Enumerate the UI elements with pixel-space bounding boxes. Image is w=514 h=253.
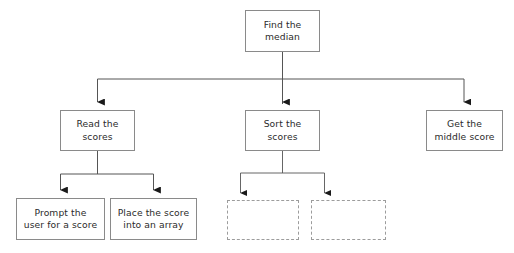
node-sort-child-placeholder-2[interactable] xyxy=(311,200,386,240)
node-sort-the-scores[interactable]: Sort the scores xyxy=(245,110,320,151)
node-sort-child-placeholder-1[interactable] xyxy=(227,200,299,240)
flowchart-canvas: Find the median Read the scores Sort the… xyxy=(0,0,514,253)
edge-group-read-the-scores xyxy=(61,151,154,190)
node-label: Get the middle score xyxy=(431,118,497,142)
node-label: Prompt the user for a score xyxy=(21,207,100,231)
node-place-the-score-into-an-array[interactable]: Place the score into an array xyxy=(110,198,197,240)
node-prompt-the-user-for-a-score[interactable]: Prompt the user for a score xyxy=(16,198,105,240)
edge-group-root xyxy=(98,52,465,104)
node-read-the-scores[interactable]: Read the scores xyxy=(60,110,135,151)
node-label: Place the score into an array xyxy=(115,207,193,231)
node-label: Find the median xyxy=(261,19,305,43)
node-label: Read the scores xyxy=(74,118,122,142)
node-label: Sort the scores xyxy=(261,118,305,142)
node-find-the-median[interactable]: Find the median xyxy=(245,10,320,52)
node-get-the-middle-score[interactable]: Get the middle score xyxy=(426,110,503,151)
edge-group-sort-the-scores xyxy=(241,151,325,193)
